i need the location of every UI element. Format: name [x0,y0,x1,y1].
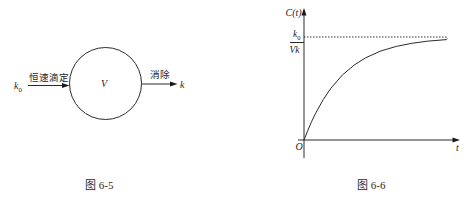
elimination-rate-symbol: k [180,79,185,90]
asymptote-denominator: Vk [290,45,301,55]
input-arrowhead-icon [62,83,70,88]
y-axis-arrow-icon [302,8,307,16]
figure-6-6-caption: 图 6-6 [357,179,386,191]
concentration-curve [304,39,447,141]
asymptote-numerator: k0 [293,29,300,41]
figure-6-5: V k0 恒速滴定 消除 k 图 6-5 [14,48,185,192]
figure-6-5-caption: 图 6-5 [85,179,114,191]
elimination-label: 消除 [150,69,170,80]
x-axis-label: t [456,142,459,153]
output-arrowhead-icon [170,82,178,87]
infusion-label: 恒速滴定 [29,72,69,83]
y-axis-label: C(t) [286,7,303,19]
origin-label: O [296,141,303,152]
compartment-volume-label: V [101,78,109,89]
input-rate-symbol: k0 [14,80,22,94]
figures-canvas: V k0 恒速滴定 消除 k 图 6-5 C(t) O t k0 Vk 图 6-… [0,0,464,198]
figure-6-6: C(t) O t k0 Vk 图 6-6 [286,7,461,191]
